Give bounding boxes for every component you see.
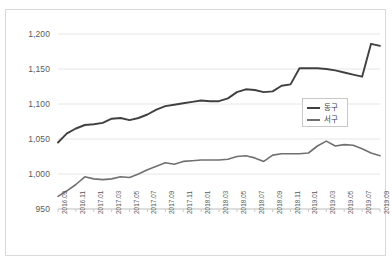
x-axis-tick-label: 2017.07 [150,191,157,214]
chart-legend: 동구 서구 [302,98,348,127]
legend-label-donggu: 동구 [324,103,338,112]
x-axis-tick-label: 2016.09 [61,191,68,214]
x-axis-tick-label: 2017.01 [97,191,104,214]
series-line-seogu [58,141,380,196]
y-axis-tick-label: 950 [16,204,50,214]
x-axis-tick-label: 2018.09 [276,191,283,214]
x-axis-tick-label: 2018.07 [258,191,265,214]
y-axis-tick-label: 1,000 [16,169,50,179]
x-axis-tick-label: 2016.11 [79,191,86,214]
x-axis-tick-label: 2017.05 [133,191,140,214]
x-axis-tick-label: 2017.09 [168,191,175,214]
chart-container: 9501,0001,0501,1001,1501,200 2016.092016… [5,9,386,256]
y-axis-tick-label: 1,150 [16,64,50,74]
x-axis-tick-label: 2019.05 [347,191,354,214]
x-axis-tick-label: 2017.11 [186,191,193,214]
x-axis-tick-label: 2017.03 [115,191,122,214]
y-axis-tick-label: 1,100 [16,99,50,109]
x-axis-tick-label: 2019.03 [329,191,336,214]
x-axis-tick-label: 2018.05 [240,191,247,214]
x-axis-tick-label: 2018.01 [204,191,211,214]
series-line-donggu [58,44,380,143]
x-axis-tick-label: 2018.11 [294,191,301,214]
legend-swatch-donggu [307,107,320,109]
y-axis-tick-label: 1,200 [16,29,50,39]
legend-swatch-seogu [307,119,320,121]
legend-item-donggu[interactable]: 동구 [307,102,343,113]
x-axis-tick-label: 2018.03 [222,191,229,214]
x-axis-tick-label: 2019.09 [383,191,390,214]
line-chart-plot [6,10,385,255]
x-axis-tick-label: 2019.01 [311,191,318,214]
legend-label-seogu: 서구 [324,115,338,124]
x-axis-tick-label: 2019.07 [365,191,372,214]
y-axis-tick-label: 1,050 [16,134,50,144]
legend-item-seogu[interactable]: 서구 [307,114,343,125]
